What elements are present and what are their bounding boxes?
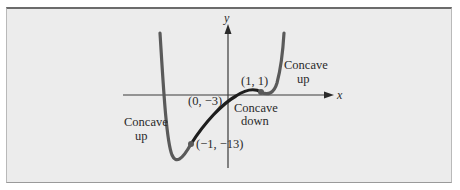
annotation-middle-line2: down: [241, 114, 270, 128]
x-axis-label: x: [336, 88, 343, 102]
inflection-point-marker: [188, 141, 194, 147]
annotation-right-line1: Concave: [284, 58, 328, 72]
annotation-middle-line1: Concave: [234, 101, 278, 115]
y-axis-arrow-icon: [225, 24, 232, 34]
point-label-1-1: (1, 1): [241, 74, 268, 88]
point-label-0-neg3: (0, −3): [188, 94, 222, 108]
x-axis-arrow-icon: [324, 92, 334, 99]
inflection-point-marker: [258, 89, 264, 95]
curve-left-concave-up: [160, 33, 191, 160]
y-axis-label: y: [223, 11, 230, 25]
point-label-neg1-neg13: (−1, −13): [196, 137, 243, 151]
annotation-left-line2: up: [135, 129, 148, 143]
concavity-diagram: x y (0, −3) (1, 1) (−1, −13) Concave up …: [0, 0, 460, 190]
annotation-right-line2: up: [297, 72, 310, 86]
annotation-left-line1: Concave: [124, 115, 168, 129]
